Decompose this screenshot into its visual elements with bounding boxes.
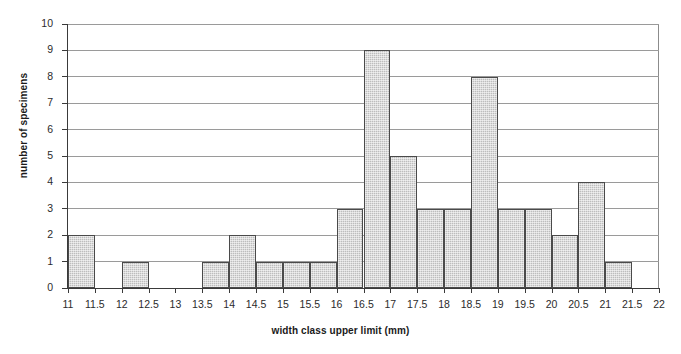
x-tick-mark bbox=[202, 288, 203, 293]
histogram-bar bbox=[578, 182, 605, 288]
histogram-bar bbox=[364, 50, 391, 288]
x-tick-mark bbox=[337, 288, 338, 293]
x-tick-mark bbox=[149, 288, 150, 293]
histogram-bar bbox=[444, 209, 471, 288]
y-tick-mark bbox=[62, 208, 67, 209]
y-tick-mark bbox=[62, 129, 67, 130]
x-tick-mark bbox=[525, 288, 526, 293]
y-tick-label: 5 bbox=[13, 149, 53, 161]
x-tick-mark bbox=[444, 288, 445, 293]
x-tick-mark bbox=[578, 288, 579, 293]
y-tick-label: 3 bbox=[13, 202, 53, 214]
histogram-bar bbox=[283, 262, 310, 288]
y-tick-mark bbox=[62, 76, 67, 77]
x-tick-mark bbox=[390, 288, 391, 293]
x-tick-mark bbox=[229, 288, 230, 293]
y-tick-label: 10 bbox=[13, 17, 53, 29]
x-tick-mark bbox=[552, 288, 553, 293]
histogram-bar bbox=[229, 235, 256, 288]
x-tick-mark bbox=[659, 288, 660, 293]
x-tick-mark bbox=[256, 288, 257, 293]
histogram-bar bbox=[471, 77, 498, 288]
x-tick-mark bbox=[471, 288, 472, 293]
y-tick-mark bbox=[62, 156, 67, 157]
x-tick-mark bbox=[122, 288, 123, 293]
histogram-bar bbox=[390, 156, 417, 288]
y-tick-label: 0 bbox=[13, 281, 53, 293]
x-tick-mark bbox=[283, 288, 284, 293]
x-tick-mark bbox=[68, 288, 69, 293]
y-tick-mark bbox=[62, 103, 67, 104]
histogram-bar bbox=[498, 209, 525, 288]
x-tick-mark bbox=[605, 288, 606, 293]
x-axis-title: width class upper limit (mm) bbox=[0, 325, 681, 336]
y-tick-mark bbox=[62, 182, 67, 183]
histogram-bar bbox=[122, 262, 149, 288]
y-tick-label: 9 bbox=[13, 43, 53, 55]
x-tick-mark bbox=[310, 288, 311, 293]
plot-area: 1111.51212.51313.51414.51515.51616.51717… bbox=[67, 24, 659, 289]
x-tick-mark bbox=[498, 288, 499, 293]
x-tick-mark bbox=[364, 288, 365, 293]
histogram-bar bbox=[310, 262, 337, 288]
x-tick-label: 22 bbox=[637, 298, 681, 310]
y-tick-mark bbox=[62, 50, 67, 51]
y-tick-label: 4 bbox=[13, 175, 53, 187]
histogram-bar bbox=[605, 262, 632, 288]
y-tick-mark bbox=[62, 235, 67, 236]
x-tick-mark bbox=[175, 288, 176, 293]
histogram-bar bbox=[337, 209, 364, 288]
histogram-chart: number of specimens 1111.51212.51313.514… bbox=[0, 0, 681, 354]
x-tick-mark bbox=[417, 288, 418, 293]
y-tick-mark bbox=[62, 261, 67, 262]
y-tick-label: 1 bbox=[13, 255, 53, 267]
histogram-bar bbox=[256, 262, 283, 288]
y-tick-label: 8 bbox=[13, 70, 53, 82]
histogram-bar bbox=[68, 235, 95, 288]
y-tick-label: 7 bbox=[13, 96, 53, 108]
gridline bbox=[68, 24, 659, 25]
histogram-bar bbox=[202, 262, 229, 288]
histogram-bar bbox=[525, 209, 552, 288]
y-tick-label: 2 bbox=[13, 228, 53, 240]
y-tick-label: 6 bbox=[13, 123, 53, 135]
x-tick-mark bbox=[632, 288, 633, 293]
y-tick-mark bbox=[62, 24, 67, 25]
x-tick-mark bbox=[95, 288, 96, 293]
histogram-bar bbox=[552, 235, 579, 288]
histogram-bar bbox=[417, 209, 444, 288]
y-tick-mark bbox=[62, 288, 67, 289]
